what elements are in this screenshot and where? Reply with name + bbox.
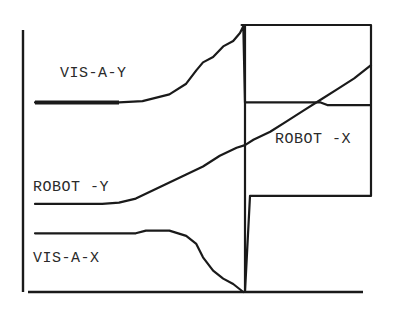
label-robot-x: ROBOT -X (275, 131, 351, 148)
label-vis-a-y: VIS-A-Y (60, 65, 127, 82)
label-vis-a-x: VIS-A-X (33, 250, 100, 267)
signal-diagram: VIS-A-Y ROBOT -X ROBOT -Y VIS-A-X (0, 0, 393, 309)
label-robot-y: ROBOT -Y (33, 179, 109, 196)
trace-robot-x-step (242, 25, 371, 292)
